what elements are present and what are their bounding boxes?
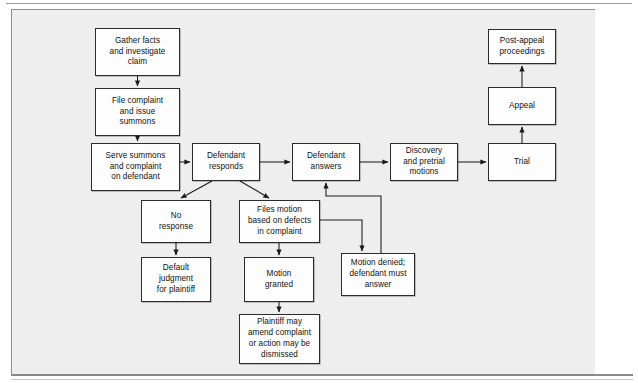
edge-responds-to-noresponse	[181, 181, 212, 198]
node-files-motion[interactable]: Files motion based on defects in complai…	[239, 200, 320, 243]
node-motion-denied[interactable]: Motion denied; defendant must answer	[341, 253, 415, 296]
node-file-complaint[interactable]: File complaint and issue summons	[95, 88, 180, 136]
edge-responds-to-filesmotion	[240, 181, 269, 198]
node-label: Defendant answers	[307, 151, 345, 173]
node-label: Serve summons and complaint on defendant	[106, 151, 166, 184]
node-label: Trial	[514, 157, 530, 168]
node-motion-granted[interactable]: Motion granted	[244, 257, 314, 302]
edge-denied-to-answers	[326, 183, 381, 253]
node-gather-facts[interactable]: Gather facts and investigate claim	[95, 28, 180, 76]
node-post-appeal-proceedings[interactable]: Post-appeal proceedings	[488, 29, 556, 64]
node-defendant-responds[interactable]: Defendant responds	[192, 143, 260, 181]
node-label: Discovery and pretrial motions	[403, 146, 445, 179]
node-label: Motion denied; defendant must answer	[349, 258, 406, 291]
node-label: Plaintiff may amend complaint or action …	[248, 317, 311, 361]
node-label: Gather facts and investigate claim	[110, 36, 166, 69]
node-label: File complaint and issue summons	[112, 96, 163, 129]
node-label: Appeal	[509, 101, 535, 112]
page-root: Gather facts and investigate claim File …	[0, 0, 638, 383]
node-default-judgment[interactable]: Default judgment for plaintiff	[141, 257, 211, 302]
node-label: Default judgment for plaintiff	[157, 263, 195, 296]
node-trial[interactable]: Trial	[488, 143, 556, 181]
node-discovery-pretrial-motions[interactable]: Discovery and pretrial motions	[390, 143, 458, 181]
edge-filesmotion-to-denied	[320, 220, 362, 251]
node-serve-summons[interactable]: Serve summons and complaint on defendant	[91, 143, 180, 191]
node-label: Motion granted	[265, 269, 293, 291]
node-plaintiff-may-amend[interactable]: Plaintiff may amend complaint or action …	[239, 314, 320, 364]
node-label: Files motion based on defects in complai…	[248, 205, 311, 238]
node-label: Defendant responds	[207, 151, 245, 173]
node-label: Post-appeal proceedings	[499, 36, 544, 58]
node-no-response[interactable]: No response	[141, 200, 211, 243]
flowchart-canvas: Gather facts and investigate claim File …	[0, 0, 638, 383]
node-appeal[interactable]: Appeal	[488, 87, 556, 125]
node-defendant-answers[interactable]: Defendant answers	[292, 143, 360, 181]
node-label: No response	[159, 211, 193, 233]
